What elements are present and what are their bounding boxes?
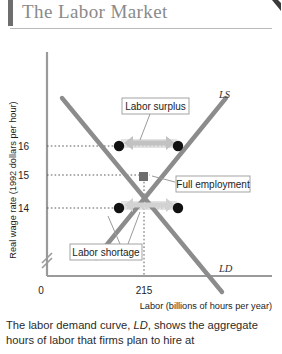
shortage-supply-point [173, 203, 183, 213]
page-title: The Labor Market [22, 1, 168, 23]
y-tick-0: 0 [38, 285, 44, 296]
callout-full-employment-label: Full employment [176, 179, 250, 190]
callout-full-employment: Full employment [176, 176, 250, 192]
figure-header: The Labor Market [0, 0, 282, 30]
surplus-demand-point [173, 141, 183, 151]
callout-labor-shortage: Labor shortage [70, 244, 142, 260]
chart-axes [42, 52, 272, 276]
callout-labor-surplus-label: Labor surplus [125, 101, 186, 112]
header-divider [10, 28, 272, 29]
caption-line1-before: The labor demand curve, [6, 319, 133, 331]
page-corner-icon [258, 0, 282, 18]
equilibrium-point [139, 172, 148, 181]
x-axis-label: Labor (billions of hours per year) [140, 301, 272, 311]
shortage-demand-point [114, 203, 124, 213]
ls-curve-label: LS [218, 89, 231, 100]
y-tick-16: 16 [18, 141, 30, 152]
callout-labor-shortage-label: Labor shortage [72, 247, 140, 258]
y-tick-14: 14 [18, 203, 30, 214]
caption-ld-emphasis: LD [133, 319, 147, 331]
caption-line2: labor that firms plan to hire at [50, 334, 195, 346]
y-axis-label: Real wage rate (1992 dollars per hour) [8, 101, 18, 258]
labor-demand-curve [62, 98, 222, 292]
figure-caption: The labor demand curve, LD, shows the ag… [6, 318, 278, 348]
x-tick-215: 215 [136, 285, 153, 296]
header-accent-bar [8, 0, 13, 26]
callout-labor-surplus: Labor surplus [122, 98, 189, 114]
ld-curve-label: LD [218, 263, 233, 274]
labor-market-chart: LS LD 16 15 14 0 215 Real wage rate (199… [0, 30, 282, 316]
y-tick-labels: 16 15 14 0 [18, 141, 44, 296]
y-tick-15: 15 [18, 170, 30, 181]
surplus-supply-point [114, 141, 124, 151]
gap-shading [121, 139, 177, 210]
